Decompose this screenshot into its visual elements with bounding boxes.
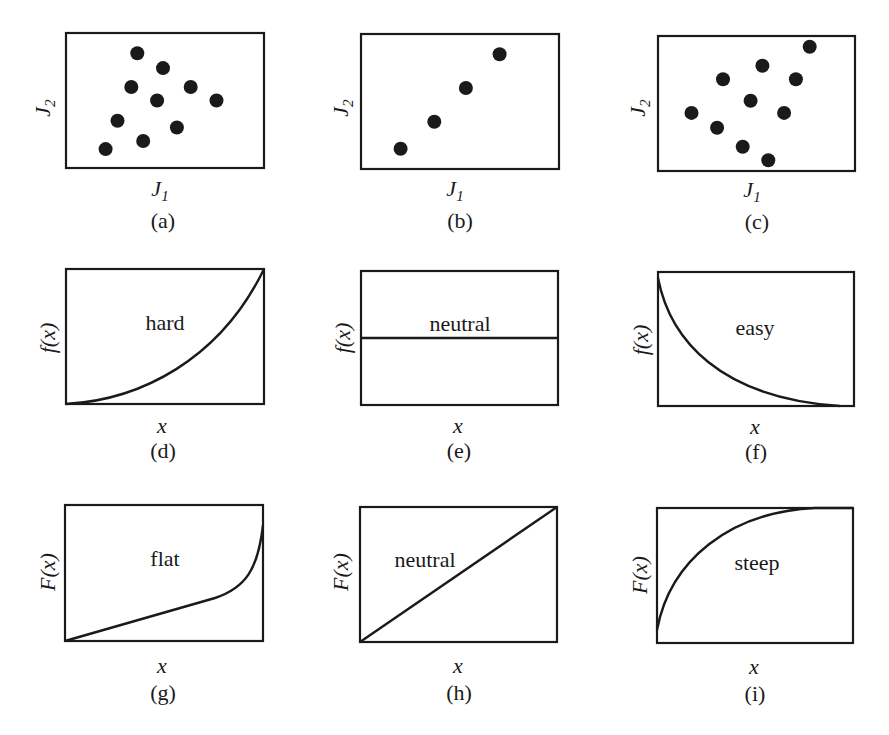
data-point xyxy=(210,94,224,108)
data-point xyxy=(184,80,198,94)
data-point xyxy=(744,94,758,108)
panel-b: J2 J1 (b) xyxy=(328,34,559,233)
panel-c: J2 J1 (c) xyxy=(625,36,855,234)
x-axis-label: J1 xyxy=(151,176,168,204)
curve-label: hard xyxy=(145,310,184,335)
data-point xyxy=(156,61,170,75)
x-axis-label: x xyxy=(452,653,463,678)
data-point xyxy=(427,115,441,129)
data-point xyxy=(150,94,164,108)
y-axis-label: J2 xyxy=(625,99,653,117)
data-point xyxy=(99,142,113,156)
data-point xyxy=(170,121,184,135)
plot-frame xyxy=(657,508,853,643)
curve-label: neutral xyxy=(429,311,490,336)
scatter-points xyxy=(99,46,224,156)
plot-frame xyxy=(65,505,263,641)
panel-i: steep F(x) x (i) xyxy=(627,508,853,706)
x-axis-label: x xyxy=(452,413,463,438)
panel-f: easy f(x) x (f) xyxy=(628,272,854,464)
panel-caption: (c) xyxy=(745,209,769,234)
x-axis-label: J1 xyxy=(446,176,463,204)
data-point xyxy=(136,134,150,148)
cdf-curve xyxy=(360,507,557,642)
panel-g: flat F(x) x (g) xyxy=(35,505,263,705)
y-axis-label: F(x) xyxy=(627,556,652,595)
data-point xyxy=(130,46,144,60)
panel-a: J2 J1 (a) xyxy=(30,33,264,233)
cdf-curve xyxy=(65,525,263,641)
panel-caption: (e) xyxy=(447,438,471,463)
curve-label: flat xyxy=(150,546,179,571)
data-point xyxy=(761,153,775,167)
density-curve xyxy=(658,278,840,406)
x-axis-label: x xyxy=(749,414,760,439)
y-axis-label: f(x) xyxy=(628,325,653,356)
panel-caption: (i) xyxy=(745,681,766,706)
data-point xyxy=(459,81,473,95)
data-point xyxy=(493,47,507,61)
data-point xyxy=(394,142,408,156)
panel-caption: (h) xyxy=(446,680,472,705)
plot-frame xyxy=(66,269,264,404)
data-point xyxy=(111,114,125,128)
x-axis-label: x xyxy=(156,653,167,678)
data-point xyxy=(124,80,138,94)
data-point xyxy=(716,72,730,86)
density-curve xyxy=(66,269,264,404)
y-axis-label: J2 xyxy=(328,99,356,117)
x-axis-label: J1 xyxy=(743,177,760,205)
data-point xyxy=(755,59,769,73)
y-axis-label: f(x) xyxy=(35,323,60,354)
panel-caption: (g) xyxy=(150,680,176,705)
y-axis-label: J2 xyxy=(30,99,58,117)
x-axis-label: x xyxy=(156,413,167,438)
panel-caption: (b) xyxy=(447,208,473,233)
scatter-points xyxy=(685,40,817,167)
data-point xyxy=(710,121,724,135)
figure-grid: J2 J1 (a) J2 J1 (b) J2 J1 (c) hard f(x) … xyxy=(0,0,889,735)
data-point xyxy=(685,106,699,120)
panel-e: neutral f(x) x (e) xyxy=(330,271,558,463)
panel-caption: (a) xyxy=(151,208,175,233)
data-point xyxy=(803,40,817,54)
panel-caption: (f) xyxy=(745,439,767,464)
curve-label: neutral xyxy=(394,547,455,572)
curve-label: steep xyxy=(734,550,779,575)
y-axis-label: F(x) xyxy=(35,553,60,592)
y-axis-label: F(x) xyxy=(328,553,353,592)
y-axis-label: f(x) xyxy=(330,323,355,354)
plot-frame xyxy=(361,34,559,169)
x-axis-label: x xyxy=(748,654,759,679)
panel-caption: (d) xyxy=(150,438,176,463)
panel-h: neutral F(x) x (h) xyxy=(328,507,557,705)
data-point xyxy=(789,72,803,86)
data-point xyxy=(736,140,750,154)
data-point xyxy=(777,106,791,120)
plot-frame xyxy=(66,33,264,168)
curve-label: easy xyxy=(735,315,774,340)
scatter-points xyxy=(394,47,507,156)
panel-d: hard f(x) x (d) xyxy=(35,269,264,463)
